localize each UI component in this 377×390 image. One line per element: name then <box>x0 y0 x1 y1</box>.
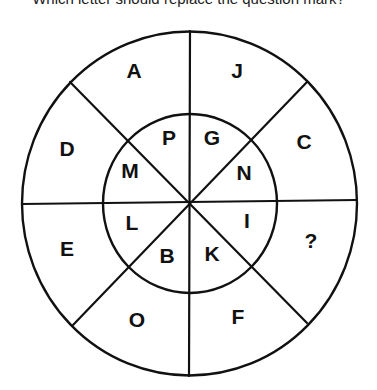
inner-letter-left-lower: L <box>126 211 139 234</box>
outer-letter-left-upper: D <box>59 137 74 160</box>
inner-letter-top-right: G <box>204 126 220 149</box>
outer-letter-top-right: J <box>231 59 243 82</box>
outer-letter-top-left: A <box>126 59 141 82</box>
question-mark-slot: ? <box>305 229 318 252</box>
outer-letter-right-upper: C <box>296 130 311 153</box>
letter-wheel-puzzle: A J C ? F O E D P G N I K B L M <box>0 0 377 390</box>
outer-letter-left-lower: E <box>60 237 74 260</box>
inner-letter-bottom-right: K <box>204 242 219 265</box>
inner-letter-left-upper: M <box>121 159 139 182</box>
outer-letter-bottom-right: F <box>232 305 245 328</box>
inner-letter-right-upper: N <box>236 161 251 184</box>
inner-letter-top-left: P <box>162 126 176 149</box>
outer-letter-bottom-left: O <box>129 308 145 331</box>
inner-letter-right-lower: I <box>244 209 250 232</box>
inner-letter-bottom-left: B <box>159 244 174 267</box>
